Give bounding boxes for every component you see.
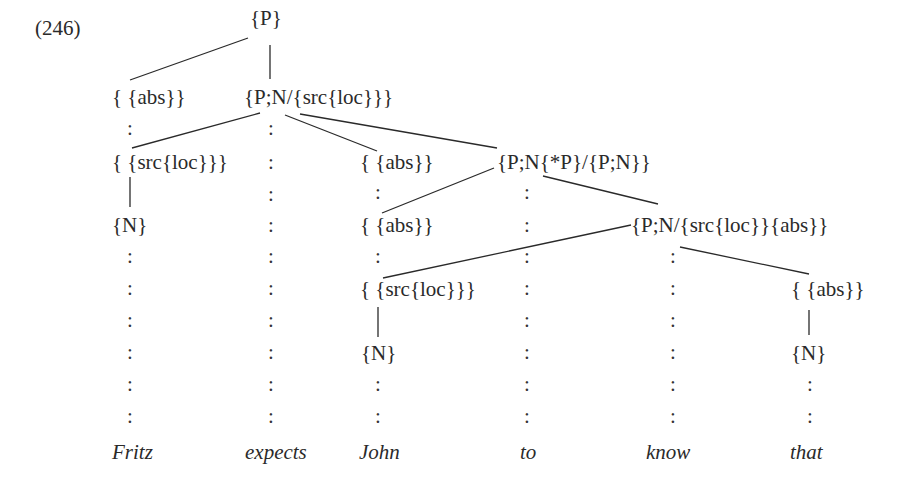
dots: : (524, 213, 530, 237)
dots: : (524, 308, 530, 332)
dots: : (375, 372, 381, 396)
node-n-john: {N} (361, 341, 396, 365)
dots: : (127, 244, 133, 268)
dots: : (268, 372, 274, 396)
dots: : (127, 116, 133, 140)
node-src-john: { {src{loc}}} (360, 277, 476, 301)
dots: : (807, 372, 813, 396)
node-root-p: {P} (250, 6, 282, 30)
node-n-that: {N} (791, 341, 826, 365)
dots: : (268, 150, 274, 174)
dots: : (524, 276, 530, 300)
edge-know-abs (680, 247, 809, 274)
dots: : (670, 276, 676, 300)
edge-head-src (132, 113, 260, 148)
dots: : (524, 404, 530, 428)
dots: : (375, 244, 381, 268)
dots: : (268, 244, 274, 268)
node-expects-head: {P;N/{src{loc}}} (244, 85, 393, 109)
node-n-fritz: {N} (112, 213, 147, 237)
dots: : (807, 404, 813, 428)
dots: : (127, 372, 133, 396)
dots: : (524, 372, 530, 396)
node-src-fritz: { {src{loc}}} (112, 150, 228, 174)
dots: : (268, 276, 274, 300)
example-number: (246) (35, 16, 81, 40)
edge-to-abs (382, 168, 494, 213)
word-to: to (520, 440, 536, 464)
dots: : (670, 308, 676, 332)
dots: : (524, 340, 530, 364)
tree-edges (0, 0, 898, 495)
node-abs-that: { {abs}} (791, 277, 865, 301)
dots: : (670, 404, 676, 428)
word-that: that (790, 440, 823, 464)
dots: : (670, 340, 676, 364)
word-know: know (646, 440, 690, 464)
dots: : (524, 180, 530, 204)
dots: : (670, 244, 676, 268)
dots: : (268, 213, 274, 237)
word-fritz: Fritz (112, 440, 153, 464)
node-abs-john-top: { {abs}} (360, 150, 434, 174)
dots: : (375, 180, 381, 204)
dots: : (268, 308, 274, 332)
node-to-head: {P;N{*P}/{P;N}} (497, 150, 651, 174)
dots: : (375, 404, 381, 428)
dots: : (268, 404, 274, 428)
node-abs-fritz: { {abs}} (112, 85, 186, 109)
edge-head-abs (285, 115, 377, 151)
dots: : (670, 372, 676, 396)
node-abs-john: { {abs}} (360, 213, 434, 237)
edge-root-abs (130, 38, 248, 80)
edge-to-know (543, 176, 658, 204)
dots: : (268, 116, 274, 140)
dots: : (127, 308, 133, 332)
dots: : (524, 244, 530, 268)
word-john: John (359, 440, 400, 464)
node-know-head: {P;N/{src{loc}}{abs}} (631, 213, 828, 237)
dots: : (127, 276, 133, 300)
dots: : (127, 404, 133, 428)
dots: : (127, 340, 133, 364)
dots: : (268, 182, 274, 206)
word-expects: expects (245, 440, 307, 464)
dots: : (268, 340, 274, 364)
edge-head-to (300, 114, 497, 148)
